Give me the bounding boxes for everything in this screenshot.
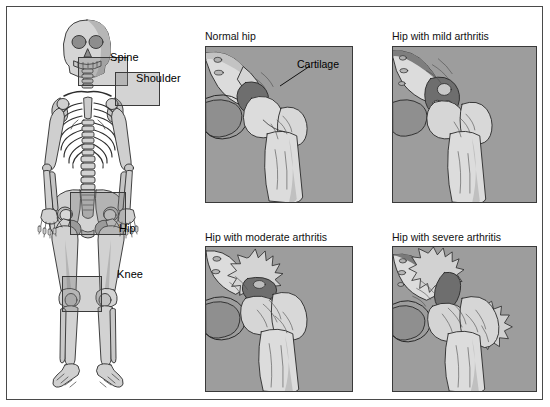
fibula-right bbox=[110, 308, 116, 363]
panel-title-mild-arthritis: Hip with mild arthritis bbox=[392, 30, 489, 42]
humerus-left bbox=[45, 108, 65, 170]
joint-label-hip: Hip bbox=[119, 222, 136, 234]
panel-moderate-arthritis bbox=[205, 246, 353, 392]
skeleton-panel bbox=[8, 8, 198, 398]
fibula-left bbox=[60, 308, 66, 363]
femoral-shaft bbox=[448, 131, 486, 202]
panel-title-normal-hip: Normal hip bbox=[205, 30, 256, 42]
humerus-right bbox=[112, 108, 132, 170]
panel-mild-arthritis bbox=[392, 46, 537, 203]
joint-label-shoulder: Shoulder bbox=[136, 72, 181, 84]
panel-title-moderate-arthritis: Hip with moderate arthritis bbox=[205, 231, 327, 243]
joint-label-knee: Knee bbox=[117, 268, 143, 280]
figure-root: Spine Shoulder Hip Knee Normal hip bbox=[0, 0, 550, 407]
foot-right bbox=[97, 364, 124, 387]
femoral-shaft bbox=[259, 329, 299, 391]
femoral-shaft bbox=[265, 131, 303, 202]
highlight-box-knee bbox=[62, 276, 102, 312]
panel-severe-arthritis bbox=[392, 246, 537, 392]
foot-left bbox=[53, 364, 80, 387]
joint-label-spine: Spine bbox=[110, 51, 139, 63]
femoral-shaft bbox=[445, 331, 485, 391]
panel-title-severe-arthritis: Hip with severe arthritis bbox=[392, 231, 501, 243]
highlight-box-hip bbox=[70, 192, 126, 235]
cartilage-annotation: Cartilage bbox=[297, 58, 339, 70]
